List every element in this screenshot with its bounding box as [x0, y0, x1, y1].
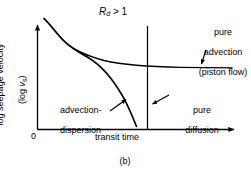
pure-diffusion-line2: diffusion [185, 125, 218, 135]
retardation-relation: > 1 [110, 6, 127, 17]
pure-advection-label: pure advection (piston flow) [185, 17, 251, 87]
y-axis-label-variable: v [17, 82, 27, 87]
y-axis-label-line2-pre: (log [17, 86, 27, 104]
pure-diffusion-label: pure diffusion [172, 95, 222, 145]
y-axis-label-line1: log seepage velocity [0, 44, 5, 126]
figure-panel-b: log seepage velocity (log vs) Rd > 1 pur… [0, 0, 251, 174]
advection-dispersion-line1: advection- [60, 105, 102, 115]
pure-advection-line3: (piston flow) [199, 67, 248, 77]
pure-diffusion-line1: pure [193, 105, 211, 115]
y-axis-label: log seepage velocity (log vs) [0, 42, 52, 138]
y-axis-label-line2: (log vs) [17, 42, 29, 138]
pure-advection-line2: advection [204, 47, 243, 57]
retardation-factor-label: Rd > 1 [99, 7, 127, 29]
advection-dispersion-arrow [110, 100, 126, 112]
pure-advection-line1: pure [214, 27, 232, 37]
panel-caption: (b) [100, 156, 150, 166]
y-axis-label-line2-post: ) [17, 75, 27, 78]
x-axis-label: transit time [72, 132, 162, 142]
pure-diffusion-arrow [153, 95, 170, 104]
origin-label: 0 [31, 131, 36, 141]
y-axis-label-subscript: s [21, 78, 28, 82]
